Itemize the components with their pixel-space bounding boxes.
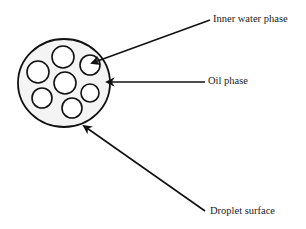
arrow-inner-water-phase — [92, 20, 210, 63]
label-oil-phase: Oil phase — [208, 76, 248, 87]
label-inner-water-phase: Inner water phase — [213, 14, 288, 25]
inner-water-droplet — [54, 72, 76, 94]
inner-water-droplet — [81, 84, 99, 102]
label-droplet-surface: Droplet surface — [210, 206, 275, 217]
inner-water-droplet — [32, 88, 52, 108]
inner-water-droplet — [62, 98, 82, 118]
inner-water-droplet — [52, 46, 74, 68]
arrow-droplet-surface — [84, 126, 205, 211]
inner-water-droplet — [27, 61, 49, 83]
inner-water-droplet — [80, 55, 100, 75]
label-arrows — [84, 20, 210, 211]
emulsion-diagram — [0, 0, 306, 229]
